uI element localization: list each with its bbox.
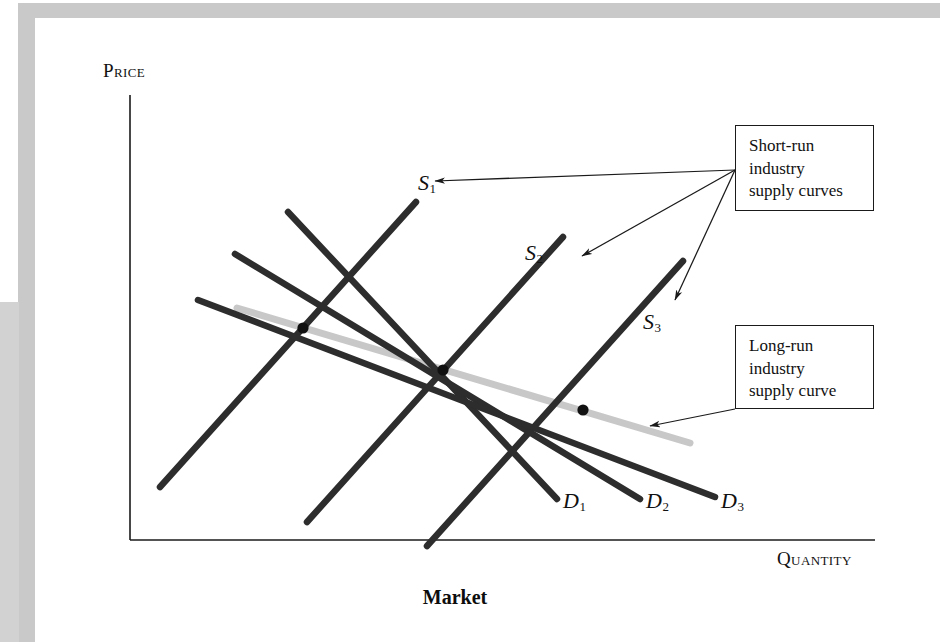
equilibrium-point-3 bbox=[577, 404, 588, 415]
figure-caption: Market bbox=[35, 586, 875, 609]
curve-label-s2-text: S bbox=[525, 240, 536, 265]
curve-label-d2-text: D bbox=[646, 488, 662, 513]
demand-curve-d3 bbox=[198, 300, 715, 497]
callout-long-run-line3: supply curve bbox=[749, 380, 862, 403]
page-frame-top-band bbox=[18, 3, 940, 18]
curve-label-s3-text: S bbox=[643, 309, 654, 334]
callout-long-run-line1: Long-run bbox=[749, 335, 862, 358]
curve-label-s2: S2 bbox=[525, 240, 543, 267]
curve-label-d1-sub: 1 bbox=[579, 499, 586, 514]
callout-short-run-line1: Short-run bbox=[749, 135, 862, 158]
page-frame-left-band bbox=[18, 3, 35, 642]
curve-label-s1-text: S bbox=[418, 170, 429, 195]
curve-label-s3: S3 bbox=[643, 309, 661, 336]
leader-line-to-s3 bbox=[675, 170, 735, 300]
y-axis-label: Price bbox=[103, 60, 145, 82]
curve-label-s2-sub: 2 bbox=[536, 251, 543, 266]
economics-supply-demand-figure: Price Quantity S1 S2 S3 D1 D2 D3 Short-r… bbox=[35, 18, 940, 642]
equilibrium-point-1 bbox=[297, 322, 308, 333]
figure-page: Price Quantity S1 S2 S3 D1 D2 D3 Short-r… bbox=[0, 0, 940, 642]
curve-label-s3-sub: 3 bbox=[654, 320, 661, 335]
leader-line-to-s1 bbox=[435, 170, 735, 181]
curve-label-s1: S1 bbox=[418, 170, 436, 197]
equilibrium-point-2 bbox=[437, 364, 448, 375]
curve-label-d1: D1 bbox=[563, 488, 586, 515]
callout-short-run-line2: industry bbox=[749, 158, 862, 181]
callout-leader-lines-group bbox=[435, 170, 735, 426]
leader-line-to-s2 bbox=[582, 170, 735, 256]
curve-label-d3-text: D bbox=[721, 488, 737, 513]
callout-short-run-line3: supply curves bbox=[749, 180, 862, 203]
x-axis-label: Quantity bbox=[777, 548, 852, 570]
curve-label-d2: D2 bbox=[646, 488, 669, 515]
curve-label-d1-text: D bbox=[563, 488, 579, 513]
leader-line-to-long-run-curve bbox=[650, 409, 735, 426]
curve-label-s1-sub: 1 bbox=[429, 181, 436, 196]
curve-label-d3-sub: 3 bbox=[737, 499, 744, 514]
demand-curve-d1 bbox=[288, 212, 557, 499]
curve-label-d2-sub: 2 bbox=[662, 499, 669, 514]
callout-long-run-supply: Long-run industry supply curve bbox=[735, 325, 874, 409]
callout-long-run-line2: industry bbox=[749, 358, 862, 381]
page-frame-corner-block bbox=[0, 302, 19, 642]
curve-label-d3: D3 bbox=[721, 488, 744, 515]
callout-short-run-supply: Short-run industry supply curves bbox=[735, 125, 874, 211]
